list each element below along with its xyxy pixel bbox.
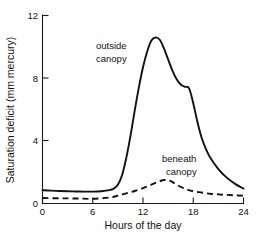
x-tick-label-6: 6 <box>90 206 95 217</box>
y-tick-label-8: 8 <box>33 73 38 84</box>
annotation-beneath-line1: beneath <box>162 153 196 164</box>
annotation-outside-line1: outside <box>96 40 127 51</box>
x-tick-label-0: 0 <box>40 206 45 217</box>
series-beneath-canopy <box>43 180 244 199</box>
x-tick-label-12: 12 <box>138 206 149 217</box>
saturation-deficit-line-chart: 12 8 4 0 0 6 12 18 24 Saturation deficit… <box>0 0 259 240</box>
y-axis-title: Saturation deficit (mm mercury) <box>4 37 16 183</box>
x-tick-label-18: 18 <box>188 206 199 217</box>
y-tick-label-0: 0 <box>33 198 38 209</box>
annotation-outside-line2: canopy <box>96 53 127 64</box>
annotation-beneath-canopy: beneath canopy <box>162 153 197 177</box>
y-tick-label-4: 4 <box>33 135 38 146</box>
y-axis-ticks <box>43 16 49 141</box>
series-outside-canopy <box>43 37 244 191</box>
x-axis-title: Hours of the day <box>104 219 182 231</box>
annotation-outside-canopy: outside canopy <box>96 40 127 64</box>
y-tick-label-12: 12 <box>27 10 38 21</box>
x-tick-label-24: 24 <box>238 206 249 217</box>
chart-figure: 12 8 4 0 0 6 12 18 24 Saturation deficit… <box>0 0 259 240</box>
axis-lines <box>43 15 244 204</box>
annotation-beneath-line2: canopy <box>166 166 197 177</box>
